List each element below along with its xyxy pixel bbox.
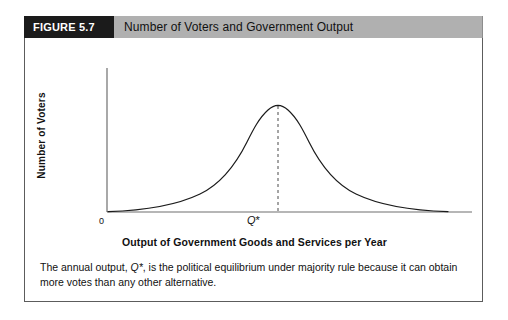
x-axis-label: Output of Government Goods and Services … xyxy=(25,236,484,248)
x-axis-qstar-tick-label: Q* xyxy=(247,214,260,226)
voter-distribution-curve xyxy=(108,105,448,211)
x-axis-origin-tick-label: 0 xyxy=(99,216,104,226)
caption-qstar: Q* xyxy=(131,261,143,273)
y-axis-label: Number of Voters xyxy=(36,76,47,196)
chart-plot-area: Number of Voters 0 Q* Output of Governme… xyxy=(25,38,484,253)
figure-number-tag: FIGURE 5.7 xyxy=(24,16,114,38)
caption-text-lead: The annual output, xyxy=(40,261,131,273)
figure-caption: The annual output, Q*, is the political … xyxy=(40,260,464,290)
figure-container: FIGURE 5.7 Number of Voters and Governme… xyxy=(0,0,508,320)
figure-title: Number of Voters and Government Output xyxy=(124,16,353,38)
figure-header-bar: FIGURE 5.7 Number of Voters and Governme… xyxy=(24,16,483,39)
figure-body-frame: Number of Voters 0 Q* Output of Governme… xyxy=(24,38,483,302)
